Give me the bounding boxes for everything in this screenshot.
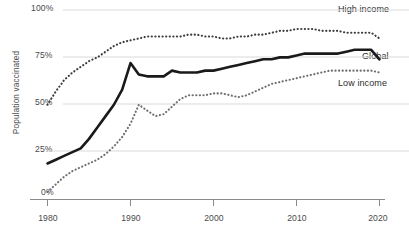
gridlines xyxy=(47,10,409,151)
line-global xyxy=(48,50,380,164)
vaccination-line-chart: Population vaccinated 100% 75% 50% 25% 0… xyxy=(0,0,409,231)
x-axis xyxy=(30,200,385,207)
line-low-income xyxy=(48,71,380,192)
plot-area xyxy=(0,0,409,231)
series-paths xyxy=(48,29,380,192)
